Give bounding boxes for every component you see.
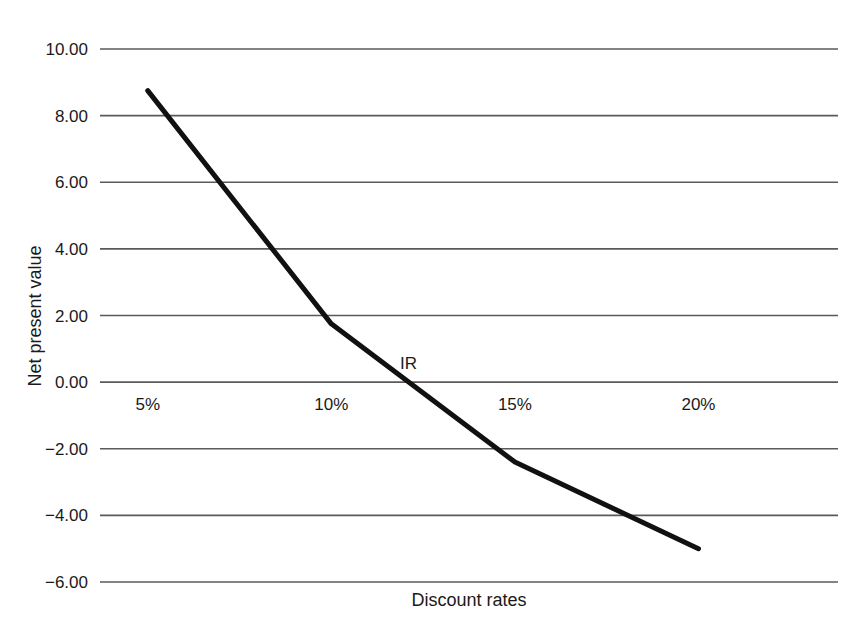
y-axis-tick-label: −6.00 bbox=[45, 574, 88, 591]
y-axis-tick-label: 10.00 bbox=[45, 41, 88, 58]
x-axis-title: Discount rates bbox=[411, 591, 526, 609]
gridline-group bbox=[100, 49, 838, 582]
y-axis-tick-label: 8.00 bbox=[55, 107, 88, 124]
y-axis-title: Net present value bbox=[26, 245, 44, 386]
y-axis-tick-label: 0.00 bbox=[55, 374, 88, 391]
chart-figure: 10.008.006.004.002.000.00−2.00−4.00−6.00… bbox=[0, 0, 864, 634]
data-series-group bbox=[148, 91, 699, 549]
x-axis-tick-label: 10% bbox=[314, 396, 348, 413]
y-axis-tick-label: 6.00 bbox=[55, 174, 88, 191]
y-axis-tick-label: −2.00 bbox=[45, 440, 88, 457]
data-line-1 bbox=[148, 91, 699, 549]
x-axis-tick-label: 5% bbox=[135, 396, 160, 413]
irr-annotation-label: IR bbox=[400, 355, 417, 372]
y-axis-tick-label: −4.00 bbox=[45, 507, 88, 524]
y-axis-tick-label: 2.00 bbox=[55, 307, 88, 324]
x-axis-tick-label: 20% bbox=[681, 396, 715, 413]
y-axis-tick-label: 4.00 bbox=[55, 240, 88, 257]
chart-plot-area bbox=[0, 0, 864, 634]
x-axis-tick-label: 15% bbox=[498, 396, 532, 413]
